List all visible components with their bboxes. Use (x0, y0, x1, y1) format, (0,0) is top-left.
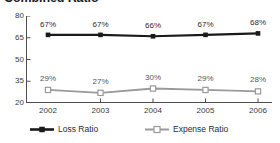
y-axis-tick-label: 50 (2, 56, 24, 64)
data-point-marker (151, 34, 156, 39)
x-axis-tick-label: 2003 (81, 106, 121, 115)
data-point-label: 28% (238, 75, 278, 84)
y-axis-tick-label: 65 (2, 34, 24, 42)
page-title: Combined Ratio (4, 0, 98, 5)
data-point-label: 29% (28, 74, 68, 83)
x-axis-tick-label: 2005 (186, 106, 226, 115)
y-axis-tick-label: 35 (2, 77, 24, 85)
data-point-label: 68% (238, 18, 278, 27)
legend-item-label: Loss Ratio (58, 124, 98, 134)
y-axis: 8065503520 (0, 16, 24, 103)
data-point-label: 30% (133, 73, 173, 82)
legend-item-expense-ratio[interactable]: Expense Ratio (145, 122, 228, 136)
data-point-label: 67% (186, 20, 226, 29)
y-axis-tick-label: 20 (2, 99, 24, 107)
x-axis-tick-label: 2006 (238, 106, 278, 115)
loss-ratio-swatch-icon (30, 125, 54, 134)
data-point-label: 66% (133, 21, 173, 30)
data-point-label: 27% (81, 77, 121, 86)
x-axis-tick-label: 2004 (133, 106, 173, 115)
legend-item-label: Expense Ratio (173, 124, 228, 134)
legend-item-loss-ratio[interactable]: Loss Ratio (30, 122, 98, 136)
y-axis-tick-label: 80 (2, 12, 24, 20)
chart-legend: Loss RatioExpense Ratio (0, 122, 280, 138)
x-axis: 20022003200420052006 (26, 106, 272, 118)
data-point-marker (203, 87, 208, 92)
data-point-label: 67% (81, 20, 121, 29)
data-point-marker (46, 33, 51, 38)
data-point-marker (150, 86, 155, 91)
data-point-label: 29% (186, 74, 226, 83)
plot-area: 67%67%66%67%68%29%27%30%29%28% (26, 16, 272, 103)
expense-ratio-swatch-icon (145, 125, 169, 134)
data-point-marker (203, 33, 208, 38)
data-point-marker (98, 90, 103, 95)
data-point-marker (98, 33, 103, 38)
combined-ratio-chart: Combined Ratio 8065503520 67%67%66%67%68… (0, 0, 280, 143)
data-point-marker (256, 31, 261, 36)
data-point-label: 67% (28, 20, 68, 29)
data-point-marker (255, 89, 260, 94)
data-point-marker (45, 87, 50, 92)
x-axis-tick-label: 2002 (28, 106, 68, 115)
